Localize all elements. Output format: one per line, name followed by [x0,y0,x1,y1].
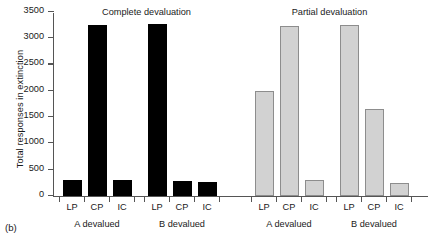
panel-title: Partial devaluation [292,7,368,17]
bar [305,180,324,196]
x-tick [59,197,60,202]
y-tick: 0 [48,195,54,196]
x-category-label: IC [394,202,403,212]
y-tick: 1500 [48,116,54,117]
bar [113,180,132,196]
x-category-label: CP [91,202,104,212]
y-tick: 2000 [48,90,54,91]
x-category-label: IC [309,202,318,212]
bar [148,24,167,196]
x-tick [219,197,220,202]
x-category-label: LP [151,202,162,212]
x-tick [301,197,302,202]
bar [173,181,192,196]
x-category-label: LP [258,202,269,212]
y-tick: 500 [48,169,54,170]
x-tick [169,197,170,202]
group-label: B devalued [159,219,205,229]
y-tick-label: 0 [39,189,44,199]
x-tick [109,197,110,202]
bar [88,25,107,196]
x-tick [251,197,252,202]
bar [63,180,82,196]
y-tick: 3000 [48,37,54,38]
y-tick-label: 2500 [24,57,44,67]
plot-area: 0500100015002000250030003500 LPCPICLPCPI… [53,13,428,197]
x-tick [144,197,145,202]
x-tick [326,197,327,202]
y-tick: 2500 [48,63,54,64]
x-category-label: CP [368,202,381,212]
x-category-label: IC [202,202,211,212]
x-tick [336,197,337,202]
y-tick-label: 500 [29,163,44,173]
x-category-label: IC [117,202,126,212]
figure-panel-b: Total responses in extinction 0500100015… [0,0,432,247]
y-tick-label: 2000 [24,84,44,94]
x-tick [361,197,362,202]
bar [280,26,299,196]
panel-title: Complete devaluation [102,7,191,17]
x-tick [411,197,412,202]
x-category-label: CP [283,202,296,212]
x-tick [194,197,195,202]
x-tick [84,197,85,202]
bar [340,25,359,196]
x-tick [134,197,135,202]
y-tick-label: 3500 [24,5,44,15]
bar [365,109,384,196]
bar [255,91,274,196]
y-tick: 3500 [48,11,54,12]
group-label: A devalued [266,219,311,229]
bar [390,183,409,196]
panel-tag: (b) [5,222,17,233]
x-tick [276,197,277,202]
y-tick-label: 3000 [24,31,44,41]
bar [198,182,217,196]
x-tick [386,197,387,202]
y-tick-label: 1000 [24,136,44,146]
x-category-label: LP [66,202,77,212]
x-category-label: CP [176,202,189,212]
group-label: A devalued [74,219,119,229]
group-label: B devalued [351,219,397,229]
y-tick-label: 1500 [24,110,44,120]
x-category-label: LP [343,202,354,212]
y-tick: 1000 [48,142,54,143]
